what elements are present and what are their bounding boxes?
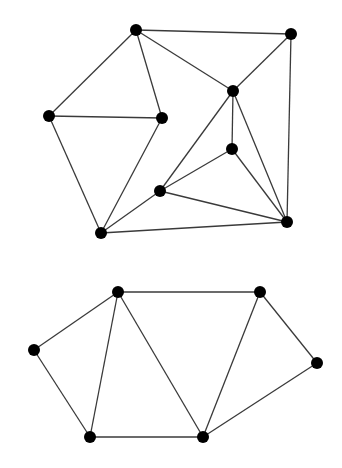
edge-U-S [203,363,317,437]
edges [49,30,291,233]
edge-A-C [136,30,233,91]
node-T [84,431,96,443]
edge-A-D [49,30,136,116]
node-D [43,110,55,122]
nodes [28,286,323,443]
node-C [227,85,239,97]
node-E [156,112,168,124]
node-R [28,344,40,356]
edge-R-T [34,350,90,437]
node-S [311,357,323,369]
edge-E-H [101,118,162,233]
edge-D-H [49,116,101,233]
edge-G-H [101,191,160,233]
node-Q [254,286,266,298]
edge-F-G [160,149,232,191]
node-P [112,286,124,298]
edge-B-C [233,34,291,91]
nodes [43,24,297,239]
edge-P-R [34,292,118,350]
edge-A-B [136,30,291,34]
graph-diagram [0,0,342,468]
edge-C-G [160,91,233,191]
node-G [154,185,166,197]
edge-D-E [49,116,162,118]
graph-bottom [28,286,323,443]
edge-P-U [118,292,203,437]
edge-C-I [233,91,287,222]
node-F [226,143,238,155]
node-A [130,24,142,36]
node-H [95,227,107,239]
node-U [197,431,209,443]
edge-H-I [101,222,287,233]
graph-top [43,24,297,239]
edges [34,292,317,437]
edge-Q-U [203,292,260,437]
edge-Q-S [260,292,317,363]
node-B [285,28,297,40]
node-I [281,216,293,228]
edge-B-I [287,34,291,222]
edge-C-F [232,91,233,149]
edge-P-T [90,292,118,437]
